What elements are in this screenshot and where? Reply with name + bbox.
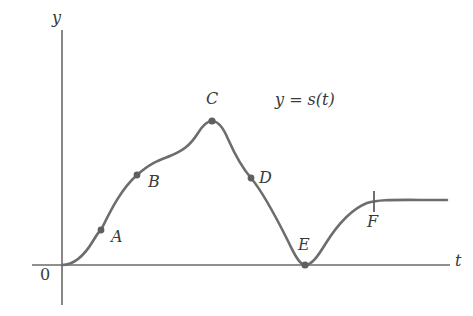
t-axis-label: t (455, 253, 461, 269)
point-label-b: B (148, 174, 160, 190)
position-graph-figure: y t 0 y = s(t) A B C D E F (0, 0, 473, 316)
point-label-f: F (367, 214, 378, 230)
point-label-c: C (206, 91, 218, 107)
point-label-a: A (111, 229, 123, 245)
point-label-d: D (259, 170, 272, 186)
graph-canvas (0, 0, 473, 316)
point-marker-a (98, 227, 105, 234)
point-marker-e (301, 261, 308, 268)
point-marker-d (248, 175, 255, 182)
point-marker-b (134, 172, 141, 179)
curve-equation-label: y = s(t) (275, 92, 335, 108)
y-axis-label: y (52, 10, 61, 26)
origin-label: 0 (40, 267, 50, 283)
point-marker-c (208, 117, 215, 124)
point-label-e: E (298, 237, 310, 253)
